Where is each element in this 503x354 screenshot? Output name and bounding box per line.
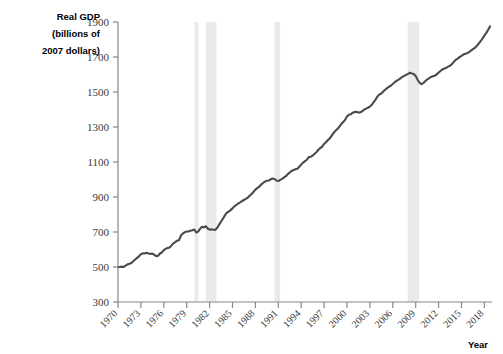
recession-band-1: [206, 22, 217, 302]
y-tick-label-1500: 1500: [87, 86, 110, 98]
recession-band-2: [274, 22, 280, 302]
y-tick-label-1300: 1300: [87, 121, 110, 133]
y-tick-label-500: 500: [93, 261, 110, 273]
y-tick-label-1100: 1100: [87, 156, 109, 168]
y-axis-title-line-3: 2007 dollars): [42, 45, 100, 56]
y-tick-label-900: 900: [93, 191, 110, 203]
gdp-chart: 30050070090011001300150017001900 1970197…: [0, 0, 503, 354]
recession-band-0: [194, 22, 198, 302]
x-axis-title: Year: [468, 339, 488, 350]
y-tick-label-700: 700: [93, 226, 110, 238]
y-axis-title-line-2: (billions of: [52, 28, 101, 39]
recession-band-3: [408, 22, 419, 302]
chart-canvas: 30050070090011001300150017001900 1970197…: [0, 0, 503, 354]
y-axis-title-line-1: Real GDP: [57, 11, 101, 22]
y-tick-label-300: 300: [93, 296, 110, 308]
